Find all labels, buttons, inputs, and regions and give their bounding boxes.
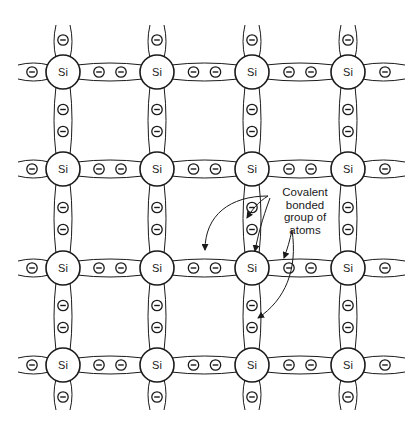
electron-icon	[284, 360, 294, 370]
bond-outline	[77, 176, 143, 178]
bond-outline	[18, 79, 49, 81]
electron-icon	[58, 300, 68, 310]
electron-icon	[210, 164, 220, 174]
bond-outline	[164, 379, 166, 410]
electron-icon	[58, 104, 68, 114]
silicon-atom: Si	[140, 251, 174, 285]
silicon-atom: Si	[331, 251, 365, 285]
electron-icon	[380, 360, 390, 370]
bond-outline	[54, 86, 56, 155]
bond-outline	[362, 356, 405, 358]
electron-icon	[343, 126, 353, 136]
bond-outline	[164, 183, 166, 254]
electron-icon	[152, 322, 162, 332]
silicon-atom: Si	[235, 55, 269, 89]
bond-outline	[54, 25, 56, 58]
silicon-atom: Si	[235, 152, 269, 186]
electron-icon	[380, 263, 390, 273]
electron-icon	[58, 224, 68, 234]
bond-outline	[171, 176, 238, 178]
atom-label: Si	[58, 163, 68, 175]
silicon-atom: Si	[46, 251, 80, 285]
bond-outline	[18, 275, 49, 277]
electron-icon	[284, 67, 294, 77]
electron-icon	[27, 164, 37, 174]
bond-outline	[266, 356, 334, 358]
bond-outline	[362, 176, 405, 178]
covalent-bond-annotation: Covalent bonded group of atoms	[270, 186, 340, 236]
bond-outline	[259, 183, 261, 254]
electron-icon	[94, 164, 104, 174]
bond-outline	[266, 160, 334, 162]
silicon-atom: Si	[140, 152, 174, 186]
bond-outline	[243, 379, 245, 410]
electron-icon	[380, 67, 390, 77]
bond-outline	[77, 63, 143, 65]
bond-outline	[259, 25, 261, 58]
bond-outline	[362, 63, 405, 65]
electron-icon	[306, 360, 316, 370]
bond-outline	[171, 275, 238, 277]
atom-label: Si	[247, 359, 257, 371]
bond-outline	[171, 259, 238, 261]
bond-outline	[70, 25, 72, 58]
electron-icon	[188, 360, 198, 370]
bond-outline	[18, 372, 49, 374]
atom-label: Si	[58, 262, 68, 274]
bond-outline	[243, 86, 245, 155]
electron-icon	[343, 35, 353, 45]
bond-outline	[266, 259, 334, 261]
electron-icon	[152, 300, 162, 310]
electron-icon	[152, 35, 162, 45]
bond-outline	[18, 160, 49, 162]
electron-icon	[94, 67, 104, 77]
atom-label: Si	[58, 66, 68, 78]
electron-icon	[27, 263, 37, 273]
electron-icon	[343, 322, 353, 332]
bond-outline	[18, 356, 49, 358]
bond-outline	[243, 25, 245, 58]
bond-outline	[266, 176, 334, 178]
bond-outline	[70, 86, 72, 155]
electron-icon	[58, 322, 68, 332]
silicon-atom: Si	[235, 251, 269, 285]
atom-label: Si	[152, 163, 162, 175]
bond-outline	[148, 86, 150, 155]
electron-icon	[343, 392, 353, 402]
electron-icon	[247, 224, 257, 234]
bond-outline	[355, 25, 357, 58]
electron-icon	[116, 360, 126, 370]
electron-icon	[210, 67, 220, 77]
annotation-line-4: atoms	[270, 224, 340, 237]
electron-icon	[116, 263, 126, 273]
bond-outline	[171, 372, 238, 374]
electron-icon	[188, 164, 198, 174]
electron-icon	[58, 202, 68, 212]
electron-icon	[94, 263, 104, 273]
electron-icon	[380, 164, 390, 174]
bond-outline	[266, 79, 334, 81]
atom-label: Si	[58, 359, 68, 371]
annotation-line-2: bonded	[270, 199, 340, 212]
silicon-atom: Si	[331, 55, 365, 89]
electron-icon	[247, 300, 257, 310]
bond-outline	[77, 356, 143, 358]
bond-outline	[171, 63, 238, 65]
atom-label: Si	[247, 163, 257, 175]
bond-outline	[148, 183, 150, 254]
bond-outline	[339, 282, 341, 351]
bond-outline	[77, 160, 143, 162]
arrow-to-left-bond	[205, 196, 268, 250]
bond-outline	[70, 282, 72, 351]
electron-icon	[343, 104, 353, 114]
bond-outline	[70, 379, 72, 410]
electron-icon	[27, 67, 37, 77]
bond-outline	[18, 176, 49, 178]
atom-label: Si	[343, 66, 353, 78]
electron-icon	[152, 104, 162, 114]
bond-outline	[355, 282, 357, 351]
electron-icon	[247, 322, 257, 332]
bond-outline	[54, 379, 56, 410]
bond-outline	[148, 25, 150, 58]
silicon-atom: Si	[235, 348, 269, 382]
